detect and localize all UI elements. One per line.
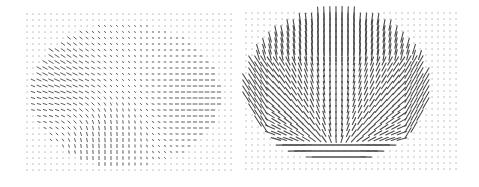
- grid-dot: [225, 44, 226, 45]
- grid-dot: [219, 14, 220, 15]
- vector-arrow: [55, 109, 59, 110]
- grid-dot: [402, 169, 403, 170]
- vector-arrow: [129, 97, 130, 99]
- grid-dot: [402, 13, 403, 14]
- grid-dot: [39, 14, 40, 15]
- vector-arrow: [61, 67, 66, 69]
- grid-dot: [27, 92, 28, 93]
- grid-dot: [153, 14, 154, 15]
- grid-dot: [225, 98, 226, 99]
- vector-arrow: [255, 116, 261, 126]
- vector-arrow: [249, 74, 255, 84]
- vector-arrow: [63, 145, 64, 147]
- grid-dot: [231, 80, 232, 81]
- vector-arrow: [243, 80, 249, 90]
- vector-arrow: [375, 112, 381, 118]
- vector-arrow: [55, 49, 59, 52]
- grid-dot: [39, 38, 40, 39]
- vector-arrow: [116, 32, 117, 33]
- grid-dot: [348, 163, 349, 164]
- vector-arrow: [49, 55, 53, 58]
- grid-dot: [57, 32, 58, 33]
- vector-arrow: [159, 151, 160, 152]
- grid-dot: [444, 133, 445, 134]
- vector-arrow: [37, 67, 41, 69]
- grid-dot: [39, 32, 40, 33]
- grid-dot: [432, 157, 433, 158]
- vector-arrow: [55, 97, 59, 98]
- grid-dot: [246, 37, 247, 38]
- vector-arrow: [43, 91, 47, 92]
- grid-dot: [195, 152, 196, 153]
- vector-arrow: [255, 62, 261, 72]
- grid-dot: [231, 26, 232, 27]
- grid-dot: [342, 163, 343, 164]
- vector-arrow: [303, 124, 309, 130]
- grid-dot: [45, 146, 46, 147]
- grid-dot: [414, 139, 415, 140]
- vector-arrow: [417, 80, 423, 90]
- grid-dot: [177, 158, 178, 159]
- grid-dot: [432, 109, 433, 110]
- grid-dot: [438, 37, 439, 38]
- grid-dot: [330, 163, 331, 164]
- grid-dot: [57, 44, 58, 45]
- grid-dot: [195, 26, 196, 27]
- grid-dot: [414, 13, 415, 14]
- vector-arrow: [104, 109, 105, 112]
- grid-dot: [33, 140, 34, 141]
- grid-dot: [414, 25, 415, 26]
- grid-dot: [246, 109, 247, 110]
- vector-arrow: [49, 97, 53, 98]
- grid-dot: [225, 80, 226, 81]
- grid-dot: [408, 157, 409, 158]
- grid-dot: [231, 74, 232, 75]
- grid-dot: [195, 164, 196, 165]
- vector-arrow: [128, 56, 129, 57]
- grid-dot: [432, 103, 433, 104]
- grid-dot: [189, 20, 190, 21]
- grid-dot: [264, 145, 265, 146]
- grid-dot: [288, 13, 289, 14]
- grid-dot: [432, 13, 433, 14]
- vector-arrow: [68, 37, 71, 39]
- vector-arrow: [73, 97, 77, 99]
- grid-dot: [219, 68, 220, 69]
- vector-arrow: [128, 62, 129, 63]
- grid-dot: [252, 121, 253, 122]
- grid-dot: [27, 56, 28, 57]
- vector-arrow: [98, 55, 100, 56]
- vector-arrow: [80, 115, 82, 117]
- vector-arrow: [86, 103, 89, 105]
- vector-arrow: [43, 79, 48, 81]
- vector-arrow: [122, 62, 123, 63]
- vector-arrow: [387, 100, 394, 107]
- grid-dot: [63, 152, 64, 153]
- grid-dot: [450, 31, 451, 32]
- vector-arrow: [147, 139, 148, 141]
- vector-arrow: [134, 74, 135, 75]
- grid-dot: [189, 152, 190, 153]
- vector-arrow: [80, 132, 81, 135]
- grid-dot: [219, 56, 220, 57]
- vector-arrow: [74, 133, 75, 136]
- grid-dot: [414, 43, 415, 44]
- grid-dot: [354, 163, 355, 164]
- grid-dot: [201, 32, 202, 33]
- grid-dot: [165, 26, 166, 27]
- grid-dot: [378, 157, 379, 158]
- grid-dot: [27, 50, 28, 51]
- vector-arrow: [315, 136, 321, 141]
- grid-dot: [201, 158, 202, 159]
- vector-arrow: [111, 115, 112, 118]
- vector-arrow: [104, 91, 106, 93]
- grid-dot: [183, 170, 184, 171]
- grid-dot: [318, 169, 319, 170]
- grid-dot: [246, 73, 247, 74]
- grid-dot: [69, 158, 70, 159]
- vector-arrow: [98, 31, 99, 32]
- quiver-plot-left: [0, 0, 240, 187]
- grid-dot: [432, 25, 433, 26]
- grid-dot: [81, 26, 82, 27]
- vector-arrow: [417, 68, 423, 78]
